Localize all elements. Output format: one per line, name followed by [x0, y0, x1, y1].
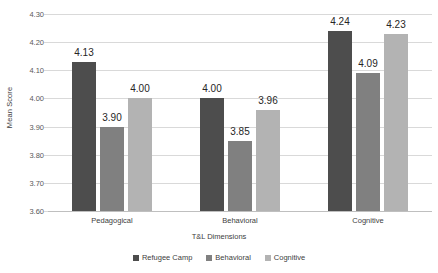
bar-value-label: 4.00 — [202, 83, 221, 94]
bar[interactable] — [228, 141, 252, 211]
x-axis-category-label: Pedagogical — [91, 216, 132, 225]
bar[interactable] — [256, 110, 280, 211]
y-axis-title: Mean Score — [2, 0, 18, 215]
legend-swatch-icon — [265, 255, 271, 261]
bar-value-label: 4.00 — [130, 83, 149, 94]
legend-item[interactable]: Cognitive — [265, 253, 305, 262]
legend-label: Refugee Camp — [142, 253, 192, 262]
y-axis-tick-label: 4.10 — [18, 66, 44, 75]
legend-swatch-icon — [206, 255, 212, 261]
bar-value-label: 3.96 — [258, 95, 277, 106]
bar[interactable] — [100, 127, 124, 211]
y-axis-tick-label: 4.20 — [18, 38, 44, 47]
chart-legend: Refugee CampBehavioralCognitive — [0, 253, 438, 262]
bar[interactable] — [200, 98, 224, 211]
axis-baseline — [48, 211, 432, 212]
legend-label: Behavioral — [215, 253, 250, 262]
gridline — [48, 70, 432, 71]
x-axis-category-label: Cognitive — [352, 216, 383, 225]
y-axis-tick-mark — [44, 127, 48, 128]
legend-label: Cognitive — [274, 253, 305, 262]
legend-item[interactable]: Behavioral — [206, 253, 250, 262]
bar[interactable] — [356, 73, 380, 211]
y-axis-tick-label: 4.30 — [18, 10, 44, 19]
y-axis-tick-label: 4.00 — [18, 94, 44, 103]
bar[interactable] — [128, 98, 152, 211]
y-axis-tick-label: 3.70 — [18, 178, 44, 187]
legend-swatch-icon — [133, 255, 139, 261]
gridline — [48, 14, 432, 15]
legend-item[interactable]: Refugee Camp — [133, 253, 192, 262]
y-axis-tick-mark — [44, 183, 48, 184]
bar[interactable] — [384, 34, 408, 211]
bar-value-label: 3.85 — [230, 126, 249, 137]
y-axis-tick-mark — [44, 98, 48, 99]
bar-value-label: 4.13 — [74, 47, 93, 58]
y-axis-tick-label: 3.60 — [18, 207, 44, 216]
y-axis-title-label: Mean Score — [6, 87, 15, 128]
x-axis-title: T&L Dimensions — [0, 232, 438, 241]
bar[interactable] — [328, 31, 352, 211]
bar[interactable] — [72, 62, 96, 211]
y-axis-tick-mark — [44, 42, 48, 43]
y-axis-tick-mark — [44, 211, 48, 212]
bar-value-label: 3.90 — [102, 112, 121, 123]
y-axis-tick-label: 3.90 — [18, 122, 44, 131]
plot-area: 4.133.904.004.003.853.964.244.094.23 — [48, 14, 432, 211]
y-axis-tick-mark — [44, 155, 48, 156]
y-axis-tick-label: 3.80 — [18, 150, 44, 159]
bar-value-label: 4.24 — [330, 16, 349, 27]
bar-value-label: 4.23 — [386, 19, 405, 30]
x-axis-category-label: Behavioral — [222, 216, 257, 225]
gridline — [48, 42, 432, 43]
y-axis-tick-mark — [44, 70, 48, 71]
y-axis-tick-mark — [44, 14, 48, 15]
bar-chart: Mean Score 4.304.204.104.003.903.803.703… — [0, 0, 438, 273]
bar-value-label: 4.09 — [358, 58, 377, 69]
